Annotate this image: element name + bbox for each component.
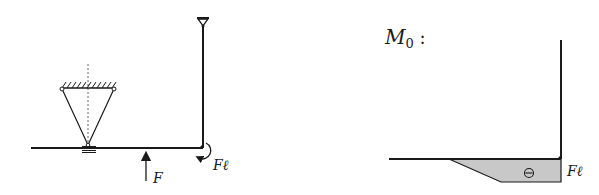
moment-value-label: Fℓ xyxy=(566,163,583,179)
pin-support-icon xyxy=(197,18,209,28)
cable-left xyxy=(63,91,88,145)
moment-diagram: M0 : Fℓ xyxy=(384,25,583,182)
negative-moment-area xyxy=(449,159,561,182)
structure-diagram: F Fℓ xyxy=(31,18,229,186)
force-arrow: F xyxy=(146,156,164,186)
force-label: F xyxy=(152,170,164,186)
moment-label: Fℓ xyxy=(212,157,229,173)
cable-suspension xyxy=(60,64,116,153)
cable-right xyxy=(88,91,113,145)
rigid-corner-icon xyxy=(199,144,203,148)
diagram-canvas: F Fℓ M0 : Fℓ xyxy=(0,0,599,195)
beam-plate-icon xyxy=(82,146,96,153)
moment-diagram-title: M0 : xyxy=(384,25,426,51)
ceiling-hatch-icon xyxy=(62,82,116,88)
